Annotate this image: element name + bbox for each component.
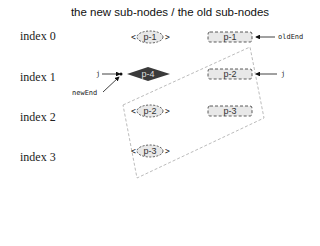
new-node-p3: < p-3 > [131,145,170,157]
new-j-pointer: j [96,70,123,78]
new-end-pointer: newEnd [72,77,119,97]
diagram-canvas: < p-1 > p-4 < p-2 > < p-3 > p-1 p-2 p-3 [0,0,320,246]
old-j-pointer: j [256,70,285,78]
old-node-p3: p-3 [208,106,252,116]
svg-text:j: j [281,70,285,78]
svg-text:>: > [165,147,170,156]
old-node-p2: p-2 [208,69,252,79]
node-label: p-2 [223,69,236,79]
svg-text:<: < [131,33,136,42]
new-node-p1: < p-1 > [131,31,170,43]
old-end-pointer: oldEnd [256,33,303,41]
svg-text:<: < [131,147,136,156]
svg-text:<: < [131,107,136,116]
svg-text:newEnd: newEnd [72,89,97,97]
svg-text:oldEnd: oldEnd [278,33,303,41]
node-label: p-2 [143,106,156,116]
new-node-p4: p-4 [127,67,170,81]
node-label: p-1 [143,32,156,42]
node-label: p-3 [223,106,236,116]
svg-text:>: > [165,107,170,116]
node-label: p-4 [141,69,154,79]
node-label: p-1 [223,32,236,42]
svg-text:>: > [165,33,170,42]
old-node-p1: p-1 [208,32,252,42]
node-label: p-3 [143,146,156,156]
arrow-diagonal-icon [103,77,119,92]
svg-text:j: j [96,70,100,78]
new-node-p2: < p-2 > [131,105,170,117]
